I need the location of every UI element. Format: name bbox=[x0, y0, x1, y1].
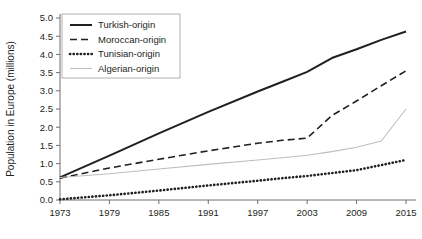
x-tick-label: 1991 bbox=[198, 207, 219, 218]
x-tick-label: 1997 bbox=[247, 207, 268, 218]
x-tick-label: 2015 bbox=[395, 207, 416, 218]
series-line-tunisian-origin bbox=[60, 160, 406, 199]
y-axis-label: Population in Europe (millions) bbox=[5, 41, 16, 177]
y-tick-label: 1.0 bbox=[40, 158, 53, 169]
y-tick-label: 0.0 bbox=[40, 194, 53, 205]
legend-label-algerian-origin: Algerian-origin bbox=[98, 63, 159, 74]
legend-label-tunisian-origin: Tunisian-origin bbox=[98, 48, 160, 59]
y-tick-label: 2.5 bbox=[40, 103, 53, 114]
y-tick-label: 3.0 bbox=[40, 85, 53, 96]
y-tick-label: 4.5 bbox=[40, 31, 53, 42]
y-tick-label: 3.5 bbox=[40, 67, 53, 78]
x-tick-label: 2003 bbox=[297, 207, 318, 218]
chart-canvas: 0.00.51.01.52.02.53.03.54.04.55.01973197… bbox=[0, 0, 422, 239]
legend-label-moroccan-origin: Moroccan-origin bbox=[98, 34, 166, 45]
y-tick-label: 2.0 bbox=[40, 122, 53, 133]
line-chart: 0.00.51.01.52.02.53.03.54.04.55.01973197… bbox=[0, 0, 422, 239]
series-line-algerian-origin bbox=[60, 109, 406, 177]
x-tick-label: 1985 bbox=[148, 207, 169, 218]
y-tick-label: 4.0 bbox=[40, 49, 53, 60]
x-tick-label: 2009 bbox=[346, 207, 367, 218]
y-tick-label: 0.5 bbox=[40, 176, 53, 187]
y-tick-label: 5.0 bbox=[40, 12, 53, 23]
x-tick-label: 1979 bbox=[99, 207, 120, 218]
x-tick-label: 1973 bbox=[49, 207, 70, 218]
legend-label-turkish-origin: Turkish-origin bbox=[98, 19, 155, 30]
y-tick-label: 1.5 bbox=[40, 140, 53, 151]
